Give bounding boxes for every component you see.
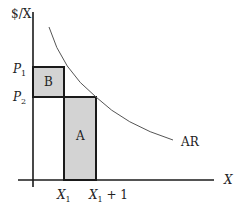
- region-b-label: B: [44, 75, 53, 89]
- x1-plus-1-label: X1 + 1: [88, 188, 128, 204]
- diagram-canvas: $/X X P1 P2 X1 X1 + 1 B A AR: [0, 0, 244, 211]
- p1-label: P1: [12, 62, 26, 78]
- p2-label: P2: [12, 90, 26, 106]
- ar-curve-label: AR: [180, 135, 200, 149]
- x-axis-label: X: [223, 173, 233, 187]
- y-axis-label: $/X: [11, 7, 32, 21]
- x1-label: X1: [56, 188, 71, 204]
- region-a-label: A: [75, 129, 85, 143]
